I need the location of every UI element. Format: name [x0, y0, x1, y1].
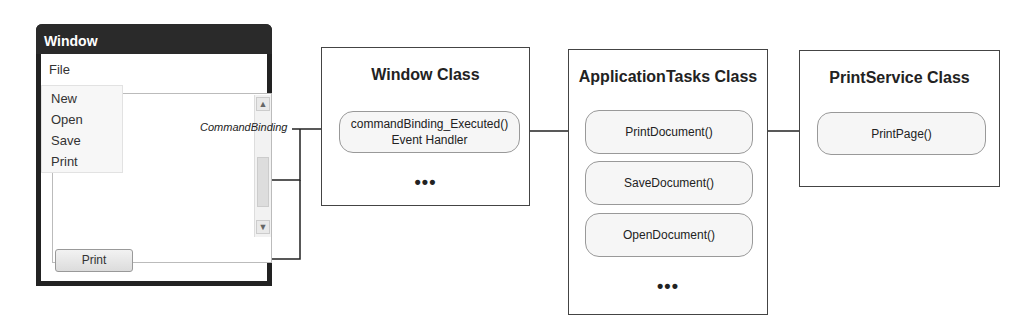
- menu-item-print[interactable]: Print: [51, 154, 78, 169]
- event-handler-method: commandBinding_Executed() Event Handler: [339, 111, 520, 153]
- scroll-thumb[interactable]: [257, 157, 269, 207]
- scroll-down-icon[interactable]: ▼: [256, 220, 270, 234]
- menu-item-new[interactable]: New: [51, 91, 77, 106]
- command-binding-label: CommandBinding: [200, 121, 287, 133]
- print-service-class-title: PrintService Class: [800, 69, 999, 87]
- ellipsis: •••: [569, 276, 767, 297]
- scroll-up-icon[interactable]: ▲: [256, 97, 270, 111]
- menu-file[interactable]: File: [49, 62, 70, 77]
- mock-window-title: Window: [36, 24, 272, 54]
- open-document-method: OpenDocument(): [585, 213, 753, 257]
- window-class-title: Window Class: [322, 66, 529, 84]
- file-menu-dropdown: New Open Save Print: [41, 85, 123, 173]
- print-service-class-box: PrintService Class PrintPage(): [799, 50, 1000, 187]
- application-tasks-class-title: ApplicationTasks Class: [569, 68, 767, 86]
- ellipsis: •••: [322, 172, 529, 193]
- menu-item-save[interactable]: Save: [51, 133, 81, 148]
- scrollbar[interactable]: ▲ ▼: [254, 95, 271, 237]
- print-page-method: PrintPage(): [817, 112, 986, 155]
- menu-bar: File: [41, 54, 267, 84]
- window-class-box: Window Class commandBinding_Executed() E…: [321, 47, 530, 206]
- print-button[interactable]: Print: [55, 249, 133, 272]
- menu-item-open[interactable]: Open: [51, 112, 83, 127]
- print-document-method: PrintDocument(): [585, 110, 753, 154]
- application-tasks-class-box: ApplicationTasks Class PrintDocument() S…: [568, 49, 768, 315]
- save-document-method: SaveDocument(): [585, 161, 753, 205]
